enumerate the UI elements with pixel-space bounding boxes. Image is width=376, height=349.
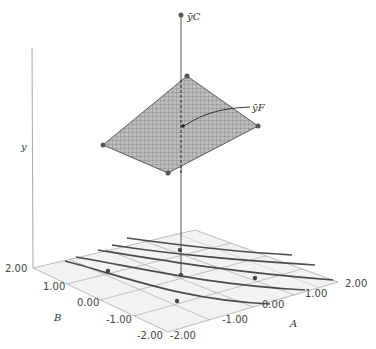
b-tick-0: 0.00 [77, 297, 99, 308]
b-tick-m2: -2.00 [137, 330, 163, 341]
b-axis-label: B [53, 312, 61, 323]
center-point-label: ȳC [186, 11, 201, 22]
b-tick-1: 1.00 [43, 281, 65, 292]
center-point-marker [179, 13, 184, 18]
a-axis-label: A [289, 318, 297, 329]
y-axis-label: y [20, 141, 27, 152]
a-tick-m1: -1.00 [222, 314, 248, 325]
b-tick-2: 2.00 [5, 263, 27, 274]
a-tick-m2: -2.00 [170, 330, 196, 341]
a-tick-2: 2.00 [345, 278, 367, 289]
y-axis-line [32, 48, 33, 268]
b-tick-m1: -1.00 [106, 314, 132, 325]
a-tick-1: 1.00 [305, 288, 327, 299]
response-surface-diagram: y ȳC ȳF [0, 0, 376, 349]
a-tick-0: 0.00 [262, 299, 284, 310]
factorial-mean-label: ȳF [251, 102, 266, 113]
